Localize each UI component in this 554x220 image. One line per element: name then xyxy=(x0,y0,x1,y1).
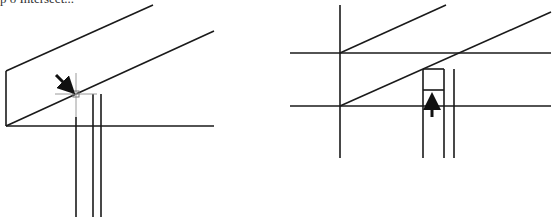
left-figure xyxy=(6,5,214,217)
diagram-canvas xyxy=(0,0,554,220)
pointer-arrow-icon xyxy=(56,75,71,90)
beam-top-edge xyxy=(6,5,153,71)
beam-lower-edge xyxy=(6,31,214,126)
beam-top-edge xyxy=(340,5,446,53)
right-figure xyxy=(290,5,551,158)
beam-lower-edge xyxy=(340,12,551,106)
